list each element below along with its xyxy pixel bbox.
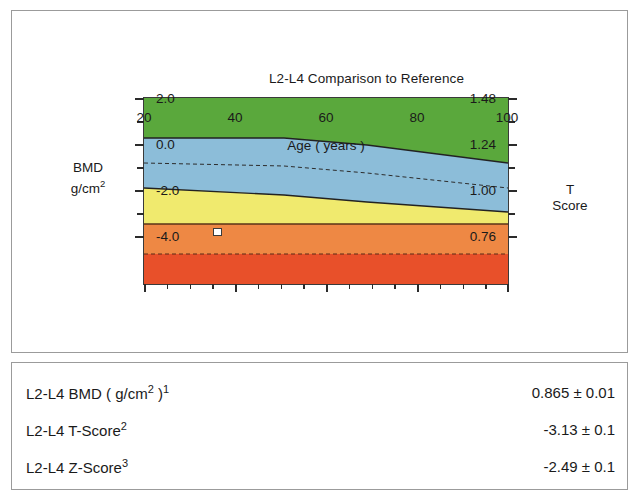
right-axis-label-2.0: 2.0 — [156, 91, 175, 106]
bottom-tick-30 — [190, 284, 192, 289]
plot-area: 1.48 1.24 1.00 0.76 BMD g/cm2 2.0 0.0 -2… — [143, 97, 509, 285]
bottom-tick-20 — [144, 284, 146, 292]
patient-marker — [213, 228, 222, 236]
left-tick-minor-3 — [137, 213, 144, 215]
row-value-t-score: -3.13 ± 0.1 — [12, 421, 615, 438]
bottom-tick-55 — [303, 284, 305, 289]
chart-panel: L2-L4 Comparison to Reference — [11, 10, 628, 353]
chart-title: L2-L4 Comparison to Reference — [12, 71, 629, 86]
bottom-tick-50 — [281, 284, 283, 289]
x-axis-title: Age ( years ) — [144, 138, 508, 154]
band-red — [144, 254, 508, 284]
x-axis-label-100: 100 — [496, 110, 519, 125]
x-axis-label-80: 80 — [409, 110, 424, 125]
right-tick-neg4.0 — [508, 236, 517, 238]
x-axis-label-60: 60 — [318, 110, 333, 125]
right-axis-title-line1: T — [566, 182, 574, 197]
bottom-tick-80 — [417, 284, 419, 292]
bottom-tick-75 — [394, 284, 396, 289]
right-axis-label-neg4.0: -4.0 — [156, 229, 179, 244]
left-tick-0.76 — [135, 236, 144, 238]
left-tick-minor-2 — [137, 167, 144, 169]
bottom-tick-45 — [258, 284, 260, 289]
bottom-tick-35 — [212, 284, 214, 289]
left-tick-1.48 — [135, 98, 144, 100]
bottom-tick-65 — [349, 284, 351, 289]
right-tick-neg2.0 — [508, 190, 517, 192]
x-axis-label-20: 20 — [136, 110, 151, 125]
left-axis-label-0.76: 0.76 — [470, 229, 496, 244]
right-tick-minor-2 — [508, 167, 515, 169]
right-axis-label-neg2.0: -2.0 — [156, 183, 179, 198]
row-value-z-score: -2.49 ± 0.1 — [12, 458, 615, 475]
bottom-tick-70 — [372, 284, 374, 289]
row-value-bmd: 0.865 ± 0.01 — [12, 384, 615, 401]
bottom-tick-100 — [507, 284, 509, 292]
bottom-tick-25 — [167, 284, 169, 289]
bottom-tick-85 — [440, 284, 442, 289]
table-row: L2-L4 Z-Score3 -2.49 ± 0.1 — [12, 449, 629, 483]
right-tick-2.0 — [508, 98, 517, 100]
reference-band-chart — [144, 98, 508, 284]
bmd-report-page: L2-L4 Comparison to Reference — [0, 0, 639, 499]
results-table-panel: L2-L4 BMD ( g/cm2 )1 0.865 ± 0.01 L2-L4 … — [11, 362, 628, 490]
table-row: L2-L4 BMD ( g/cm2 )1 0.865 ± 0.01 — [12, 375, 629, 409]
left-axis-label-1.48: 1.48 — [470, 91, 496, 106]
right-axis-title: T Score — [528, 182, 612, 214]
left-axis-title-line2: g/cm — [71, 181, 100, 196]
right-tick-minor-3 — [508, 213, 515, 215]
left-tick-1.24 — [135, 144, 144, 146]
x-axis-label-40: 40 — [227, 110, 242, 125]
table-row: L2-L4 T-Score2 -3.13 ± 0.1 — [12, 412, 629, 446]
bottom-tick-40 — [235, 284, 237, 292]
left-axis-title-exponent: 2 — [100, 178, 105, 189]
left-axis-title: BMD g/cm2 — [52, 160, 124, 197]
bottom-tick-90 — [463, 284, 465, 289]
band-orange — [144, 224, 508, 254]
left-tick-1.00 — [135, 190, 144, 192]
chart-title-text: L2-L4 Comparison to Reference — [269, 71, 464, 86]
right-tick-0.0 — [508, 144, 517, 146]
left-axis-label-1.00: 1.00 — [470, 183, 496, 198]
left-axis-title-line1: BMD — [73, 160, 103, 175]
bottom-tick-95 — [485, 284, 487, 289]
bottom-tick-60 — [326, 284, 328, 292]
right-axis-title-line2: Score — [552, 198, 587, 213]
